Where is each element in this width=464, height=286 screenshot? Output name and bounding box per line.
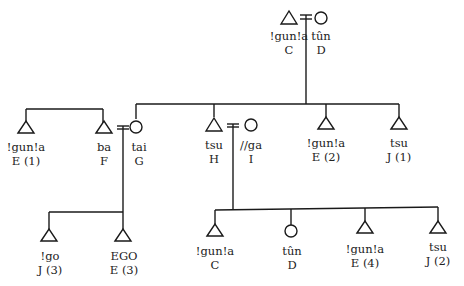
female-symbol-I: [245, 119, 257, 131]
male-symbol-E4: [357, 221, 373, 233]
term-D-bot: tûn: [252, 244, 332, 258]
female-symbol-G: [130, 121, 142, 133]
letter-EGO: E (3): [84, 263, 164, 277]
sibling-line-H-I-children: [215, 207, 438, 210]
letter-D-top: D: [281, 43, 361, 57]
label-D-bot: tûnD: [252, 244, 332, 272]
term-J2: tsu: [398, 240, 464, 254]
label-E1: !gun!aE (1): [0, 140, 66, 168]
male-symbol-E2: [318, 117, 334, 129]
male-symbol-C-bot: [207, 224, 223, 236]
male-symbol-E1: [18, 121, 34, 133]
letter-J3: J (3): [10, 263, 90, 277]
letter-C-bot: C: [175, 258, 255, 272]
label-E4: !gun!aE (4): [325, 242, 405, 270]
male-symbol-C-top: [281, 11, 297, 24]
female-symbol-D-top: [315, 12, 327, 24]
term-EGO: EGO: [84, 249, 164, 263]
term-C-bot: !gun!a: [175, 244, 255, 258]
label-J3: !goJ (3): [10, 249, 90, 277]
male-symbol-J1: [391, 117, 407, 129]
term-E4: !gun!a: [325, 242, 405, 256]
label-J1: tsuJ (1): [359, 136, 439, 164]
letter-J2: J (2): [398, 254, 464, 268]
male-symbol-J2: [430, 221, 446, 233]
male-symbol-F: [96, 121, 112, 133]
label-E2: !gun!aE (2): [286, 136, 366, 164]
letter-I: I: [211, 152, 291, 166]
term-G: tai: [99, 140, 179, 154]
female-symbol-D-bot: [285, 225, 297, 237]
male-symbol-J3: [41, 229, 57, 241]
label-G: taiG: [99, 140, 179, 168]
label-C-bot: !gun!aC: [175, 244, 255, 272]
term-J3: !go: [10, 249, 90, 263]
label-D-top: tûnD: [281, 29, 361, 57]
term-D-top: tûn: [281, 29, 361, 43]
label-I: //gaI: [211, 138, 291, 166]
male-symbol-EGO: [115, 229, 131, 241]
term-J1: tsu: [359, 136, 439, 150]
male-symbol-H: [206, 118, 222, 131]
letter-E4: E (4): [325, 256, 405, 270]
term-E1: !gun!a: [0, 140, 66, 154]
term-E2: !gun!a: [286, 136, 366, 150]
letter-G: G: [99, 154, 179, 168]
letter-E1: E (1): [0, 154, 66, 168]
label-J2: tsuJ (2): [398, 240, 464, 268]
label-EGO: EGOE (3): [84, 249, 164, 277]
letter-J1: J (1): [359, 150, 439, 164]
term-I: //ga: [211, 138, 291, 152]
letter-E2: E (2): [286, 150, 366, 164]
letter-D-bot: D: [252, 258, 332, 272]
